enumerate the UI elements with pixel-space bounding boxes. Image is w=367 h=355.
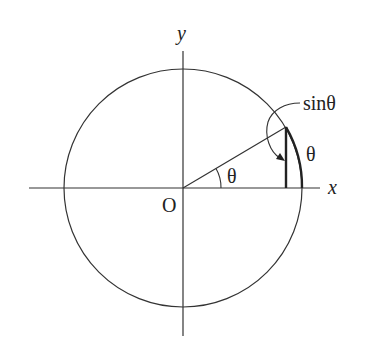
arc-theta xyxy=(286,127,302,188)
sine-label: sinθ xyxy=(303,92,336,114)
origin-label: O xyxy=(162,194,176,216)
angle-label: θ xyxy=(227,165,237,187)
x-axis-label: x xyxy=(327,176,337,198)
y-axis-label: y xyxy=(175,22,186,45)
diagram-svg: y x O θ θ sinθ xyxy=(0,0,367,355)
unit-circle-diagram: y x O θ θ sinθ xyxy=(0,0,367,355)
arrowhead-icon xyxy=(276,153,285,161)
arc-label: θ xyxy=(306,143,316,165)
angle-marker xyxy=(216,169,221,189)
